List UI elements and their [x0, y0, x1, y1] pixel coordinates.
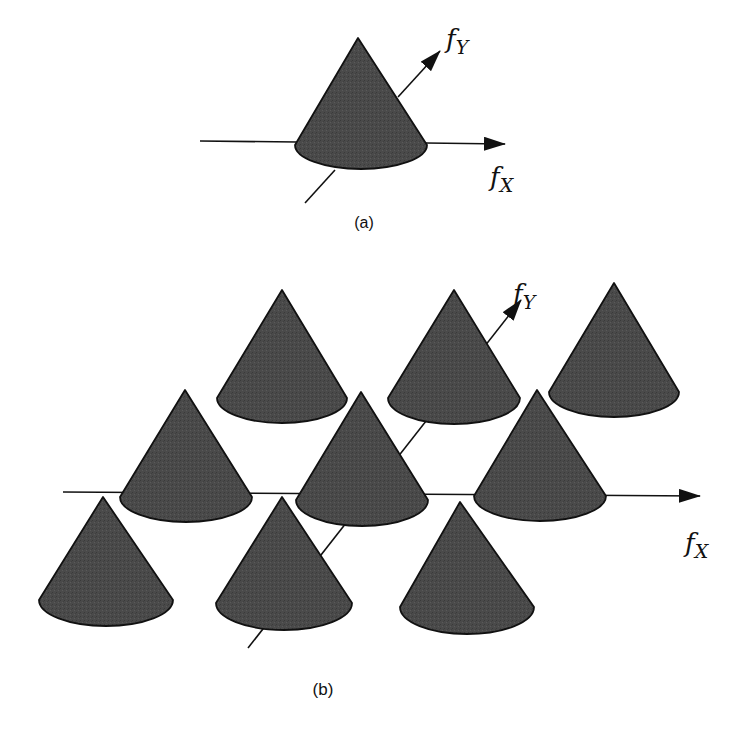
fy-label-b: fY [511, 279, 538, 313]
cone-spectrum [217, 290, 347, 423]
caption-b: (b) [313, 680, 334, 699]
fx-axis-a-left [200, 141, 297, 142]
caption-a: (a) [354, 214, 374, 231]
fy-axis-a-lower [305, 170, 335, 203]
cone-group-a [295, 38, 427, 169]
cone-spectrum [549, 283, 679, 417]
fy-axis-a-upper [398, 51, 440, 97]
cone-spectrum [388, 290, 520, 424]
fx-label-b: fX [683, 528, 710, 562]
panel-b: fY fX (b) [39, 279, 710, 699]
spectrum-figure: fY fX (a) fY fX (b) [0, 0, 756, 736]
fy-label-a: fY [444, 24, 471, 58]
cone-spectrum [400, 502, 534, 634]
fx-label-a: fX [488, 162, 515, 196]
cone-group-b [39, 283, 679, 634]
panel-a: fY fX (a) [200, 24, 515, 231]
cone-spectrum [295, 38, 427, 169]
fx-axis-a-right [426, 143, 505, 144]
